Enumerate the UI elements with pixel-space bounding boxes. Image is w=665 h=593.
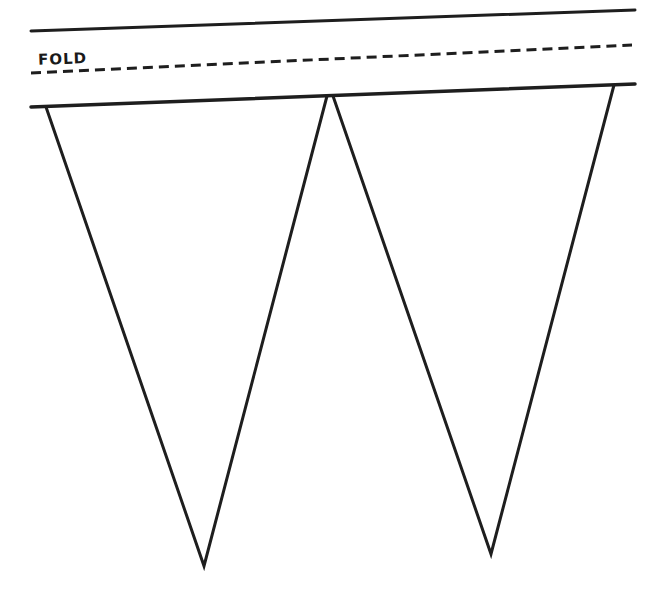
band-top-line bbox=[31, 10, 635, 31]
pennant-1 bbox=[46, 96, 327, 566]
pennant-2 bbox=[333, 85, 614, 554]
fold-label: FOLD bbox=[38, 49, 88, 69]
fold-line bbox=[31, 45, 632, 73]
bunting-template bbox=[0, 0, 665, 593]
band-bottom-line bbox=[31, 84, 635, 107]
